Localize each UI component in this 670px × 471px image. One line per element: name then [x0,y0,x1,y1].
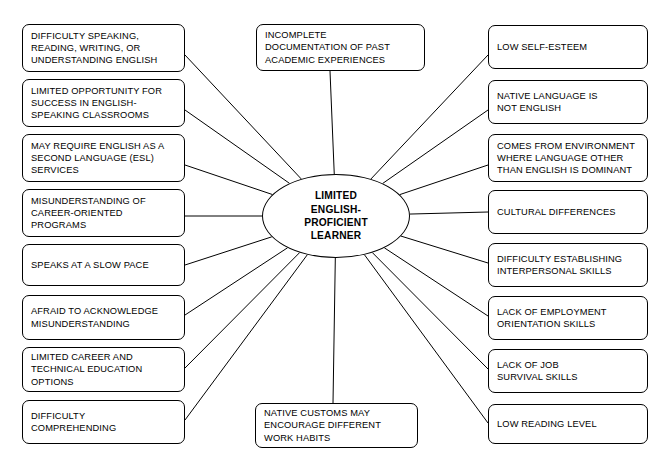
node-box-comes-from-environment-language-other[interactable]: COMES FROM ENVIRONMENT WHERE LANGUAGE OT… [488,134,648,182]
node-label-lack-of-job-survival-skills: LACK OF JOB SURVIVAL SKILLS [497,359,578,383]
node-box-difficulty-comprehending[interactable]: DIFFICULTY COMPREHENDING [22,400,185,444]
node-box-may-require-esl-services[interactable]: MAY REQUIRE ENGLISH AS A SECOND LANGUAGE… [22,134,185,182]
node-box-limited-career-technical-education-options[interactable]: LIMITED CAREER AND TECHNICAL EDUCATION O… [22,347,185,392]
node-box-misunderstanding-career-oriented-programs[interactable]: MISUNDERSTANDING OF CAREER-ORIENTED PROG… [22,189,185,237]
node-label-low-reading-level: LOW READING LEVEL [497,418,597,430]
center-node-label: LIMITED ENGLISH- PROFICIENT LEARNER [304,189,368,243]
node-label-may-require-esl-services: MAY REQUIRE ENGLISH AS A SECOND LANGUAGE… [31,140,164,176]
connector-difficulty-establishing-interpersonal-skills [401,236,488,263]
connector-lack-of-employment-orientation-skills [384,248,488,316]
node-label-difficulty-speaking-reading-writing: DIFFICULTY SPEAKING, READING, WRITING, O… [31,30,157,66]
connector-may-require-esl-services [185,165,272,195]
connector-comes-from-environment-language-other [400,165,488,195]
node-label-comes-from-environment-language-other: COMES FROM ENVIRONMENT WHERE LANGUAGE OT… [497,140,635,176]
node-label-native-language-not-english: NATIVE LANGUAGE IS NOT ENGLISH [497,90,598,114]
node-box-difficulty-speaking-reading-writing[interactable]: DIFFICULTY SPEAKING, READING, WRITING, O… [22,24,185,72]
node-label-limited-career-technical-education-options: LIMITED CAREER AND TECHNICAL EDUCATION O… [31,351,142,387]
node-label-cultural-differences: CULTURAL DIFFERENCES [497,206,616,218]
node-label-difficulty-establishing-interpersonal-skills: DIFFICULTY ESTABLISHING INTERPERSONAL SK… [497,253,622,277]
node-box-cultural-differences[interactable]: CULTURAL DIFFERENCES [488,190,648,234]
node-box-lack-of-job-survival-skills[interactable]: LACK OF JOB SURVIVAL SKILLS [488,349,648,393]
node-box-incomplete-documentation-past-academic[interactable]: INCOMPLETE DOCUMENTATION OF PAST ACADEMI… [256,24,425,71]
node-box-limited-opportunity-success-english-classrooms[interactable]: LIMITED OPPORTUNITY FOR SUCCESS IN ENGLI… [22,79,185,127]
node-label-misunderstanding-career-oriented-programs: MISUNDERSTANDING OF CAREER-ORIENTED PROG… [31,195,146,231]
connector-limited-opportunity-success-english-classrooms [185,110,289,183]
connector-incomplete-documentation-past-academic [330,71,334,174]
node-box-low-reading-level[interactable]: LOW READING LEVEL [488,404,648,444]
connector-cultural-differences [410,212,488,214]
node-label-difficulty-comprehending: DIFFICULTY COMPREHENDING [31,410,116,434]
node-label-low-self-esteem: LOW SELF-ESTEEM [497,41,587,53]
diagram-canvas: DIFFICULTY SPEAKING, READING, WRITING, O… [0,0,670,471]
connector-limited-career-technical-education-options [185,253,300,368]
connector-afraid-to-acknowledge-misunderstanding [185,248,288,315]
node-box-native-customs-work-habits[interactable]: NATIVE CUSTOMS MAY ENCOURAGE DIFFERENT W… [255,403,418,448]
node-box-lack-of-employment-orientation-skills[interactable]: LACK OF EMPLOYMENT ORIENTATION SKILLS [488,296,648,340]
node-label-incomplete-documentation-past-academic: INCOMPLETE DOCUMENTATION OF PAST ACADEMI… [265,29,390,65]
connector-difficulty-speaking-reading-writing [185,55,301,179]
node-label-lack-of-employment-orientation-skills: LACK OF EMPLOYMENT ORIENTATION SKILLS [497,306,607,330]
node-box-low-self-esteem[interactable]: LOW SELF-ESTEEM [488,25,648,69]
connector-difficulty-comprehending [185,255,307,420]
node-label-afraid-to-acknowledge-misunderstanding: AFRAID TO ACKNOWLEDGE MISUNDERSTANDING [31,305,158,329]
connector-native-language-not-english [383,110,488,183]
connector-low-reading-level [364,255,488,423]
node-box-native-language-not-english[interactable]: NATIVE LANGUAGE IS NOT ENGLISH [488,80,648,124]
node-label-native-customs-work-habits: NATIVE CUSTOMS MAY ENCOURAGE DIFFERENT W… [264,407,381,443]
node-box-difficulty-establishing-interpersonal-skills[interactable]: DIFFICULTY ESTABLISHING INTERPERSONAL SK… [488,243,648,287]
node-box-speaks-at-a-slow-pace[interactable]: SPEAKS AT A SLOW PACE [22,244,185,286]
node-box-afraid-to-acknowledge-misunderstanding[interactable]: AFRAID TO ACKNOWLEDGE MISUNDERSTANDING [22,295,185,340]
connector-native-customs-work-habits [333,258,335,403]
node-label-limited-opportunity-success-english-classrooms: LIMITED OPPORTUNITY FOR SUCCESS IN ENGLI… [31,85,162,121]
connector-lack-of-job-survival-skills [372,253,488,369]
node-label-speaks-at-a-slow-pace: SPEAKS AT A SLOW PACE [31,259,149,271]
connector-speaks-at-a-slow-pace [185,237,272,265]
connector-low-self-esteem [371,55,488,179]
center-node-limited-english-proficient-learner[interactable]: LIMITED ENGLISH- PROFICIENT LEARNER [262,174,410,258]
